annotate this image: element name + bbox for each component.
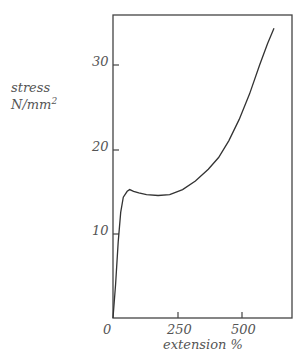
y-tick-30: 30 xyxy=(92,54,109,69)
y-axis-units: N/mm2 xyxy=(11,96,57,112)
x-tick-500: 500 xyxy=(231,322,256,337)
plot-frame xyxy=(113,15,292,318)
y-units-text: N/mm xyxy=(11,97,51,112)
y-axis-label: stress xyxy=(11,80,50,95)
x-tick-0: 0 xyxy=(103,322,111,337)
y-tick-10: 10 xyxy=(92,223,109,238)
stress-strain-curve xyxy=(113,28,274,318)
x-axis-label: extension % xyxy=(163,337,243,352)
chart-canvas xyxy=(0,0,306,364)
x-tick-250: 250 xyxy=(167,322,192,337)
y-tick-20: 20 xyxy=(92,139,109,154)
y-units-exponent: 2 xyxy=(51,96,57,106)
